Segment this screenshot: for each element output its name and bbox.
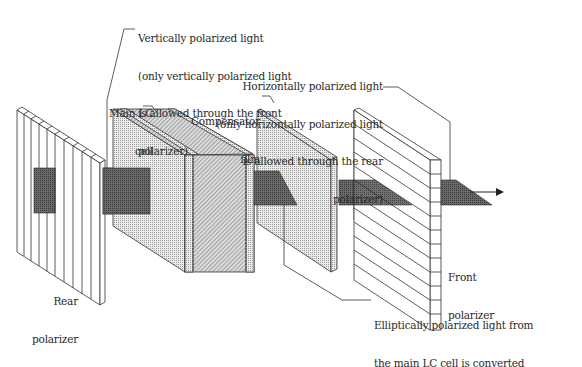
callout-elliptically-polarized: Elliptically polarized light from the ma… [374,294,558,367]
label-main-lc-cell: Main LC cell [108,82,153,170]
label-rear-polarizer: Rear polarizer [28,270,78,358]
label-compensator-film: Compensator film [180,90,260,178]
light-beam-rear [34,168,55,213]
